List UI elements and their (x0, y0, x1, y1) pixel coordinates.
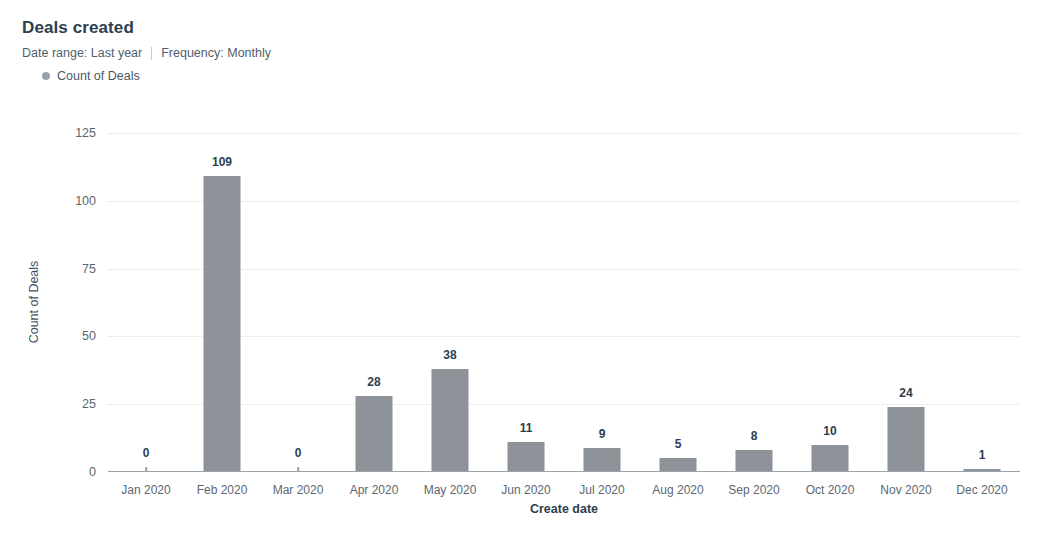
y-tick-label: 100 (75, 194, 96, 208)
bar-group: 9Jul 2020 (564, 133, 640, 472)
bar-group: 1Dec 2020 (944, 133, 1020, 472)
x-tick-label: Feb 2020 (197, 483, 248, 497)
bar-group: 38May 2020 (412, 133, 488, 472)
bar-value-label: 0 (143, 446, 150, 460)
bar-value-label: 5 (675, 437, 682, 451)
x-tick-label: Dec 2020 (956, 483, 1007, 497)
x-tick-label: Jun 2020 (501, 483, 550, 497)
bar[interactable] (508, 442, 545, 472)
x-axis-line (108, 471, 1020, 472)
bar[interactable] (888, 407, 925, 472)
y-tick-label: 125 (75, 126, 96, 140)
x-tick-label: Oct 2020 (806, 483, 855, 497)
bar-value-label: 11 (520, 421, 533, 435)
y-axis-title: Count of Deals (27, 261, 41, 344)
x-tick-label: Jan 2020 (121, 483, 170, 497)
y-tick-label: 0 (89, 465, 96, 479)
bar[interactable] (356, 396, 393, 472)
bar-chart: Count of Deals 0255075100125 0Jan 202010… (0, 0, 1043, 552)
bar-group: 8Sep 2020 (716, 133, 792, 472)
bar-value-label: 1 (979, 448, 986, 462)
y-tick-label: 50 (82, 329, 96, 343)
bar-group: 109Feb 2020 (184, 133, 260, 472)
x-tick-label: May 2020 (424, 483, 477, 497)
x-tick-label: Aug 2020 (652, 483, 703, 497)
bar[interactable] (736, 450, 773, 472)
bar-group: 0Mar 2020 (260, 133, 336, 472)
bar-group: 11Jun 2020 (488, 133, 564, 472)
bar-group: 24Nov 2020 (868, 133, 944, 472)
bar[interactable] (812, 445, 849, 472)
bar-group: 10Oct 2020 (792, 133, 868, 472)
x-axis-title: Create date (108, 502, 1020, 516)
bar[interactable] (204, 176, 241, 472)
y-tick-label: 25 (82, 397, 96, 411)
bar-value-label: 28 (367, 375, 380, 389)
x-tick-label: Nov 2020 (880, 483, 931, 497)
bar-value-label: 24 (899, 386, 912, 400)
x-tick-label: Jul 2020 (579, 483, 624, 497)
bar-value-label: 10 (823, 424, 836, 438)
bar-value-label: 109 (212, 155, 232, 169)
bar-group: 28Apr 2020 (336, 133, 412, 472)
bar-value-label: 0 (295, 446, 302, 460)
bar[interactable] (584, 448, 621, 472)
bar[interactable] (660, 458, 697, 472)
plot-area: 0255075100125 0Jan 2020109Feb 20200Mar 2… (108, 133, 1020, 472)
bar-value-label: 38 (443, 348, 456, 362)
bar-value-label: 9 (599, 427, 606, 441)
y-tick-label: 75 (82, 262, 96, 276)
x-tick-label: Apr 2020 (350, 483, 399, 497)
bar-group: 5Aug 2020 (640, 133, 716, 472)
bar-group: 0Jan 2020 (108, 133, 184, 472)
x-tick-label: Mar 2020 (273, 483, 324, 497)
bar-value-label: 8 (751, 429, 758, 443)
x-tick-label: Sep 2020 (728, 483, 779, 497)
bar[interactable] (432, 369, 469, 472)
